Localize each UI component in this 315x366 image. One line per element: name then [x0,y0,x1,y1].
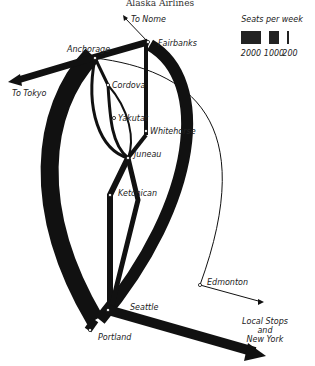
node-edmonton [198,283,201,286]
node-anchorage [93,56,96,59]
label-new-york: New York [247,335,284,344]
label-portland: Portland [98,333,132,342]
legend-swatch-2000 [241,31,261,44]
legend-label-2000: 2000 [241,49,261,58]
legend-swatch-200 [287,31,289,44]
label-cordova: Cordova [112,81,145,90]
node-cordova [106,83,109,86]
map-title: Alaska Airlines [125,0,195,8]
node-yakutat [112,116,115,119]
label-yakutat: Yakutat [118,114,149,123]
label-local-stops: Local Stops [242,317,288,326]
label-whitehorse: Whitehorse [150,127,196,136]
label-to-tokyo: To Tokyo [12,89,46,98]
legend-swatch-1000 [269,31,279,44]
node-fairbanks [146,40,149,43]
legend-label-200: 200 [282,49,297,58]
label-and: and [257,326,273,335]
node-portland [88,328,91,331]
label-fairbanks: Fairbanks [158,39,197,48]
label-juneau: Juneau [132,150,161,159]
arrow-edmonton-icon [258,299,264,305]
arrow-tokyo-icon [8,74,22,86]
legend-label-1000: 1000 [264,49,284,58]
node-juneau [126,156,129,159]
route-edmonton-east [200,285,262,302]
node-ketchican [108,193,111,196]
node-whitehorse [144,129,147,132]
label-anchorage: Anchorage [66,45,110,54]
legend-title: Seats per week [241,15,303,24]
label-seattle: Seattle [130,303,158,312]
label-ketchican: Ketchican [118,189,157,198]
route-seattle-anchorage-west [50,55,95,320]
node-seattle [106,308,109,311]
label-edmonton: Edmonton [207,278,248,287]
legend: Seats per week 2000 1000 200 [241,15,303,58]
route-seattle-newyork [108,310,255,352]
route-flow-map: Alaska Airlines Anchorage Fairbanks Cord… [0,0,315,366]
label-to-nome: To Nome [131,15,166,24]
